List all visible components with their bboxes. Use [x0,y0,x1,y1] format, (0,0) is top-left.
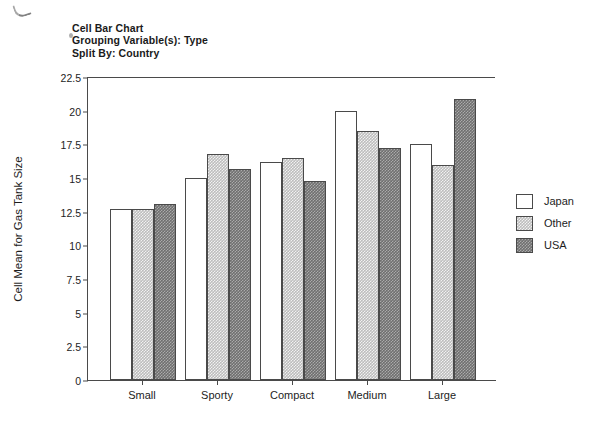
bar-sporty-japan[interactable] [185,178,207,380]
chart-title-block: Cell Bar Chart Grouping Variable(s): Typ… [72,22,208,59]
legend-item-japan[interactable]: Japan [516,190,574,212]
bar-compact-japan[interactable] [260,162,282,380]
scan-artifact-mark [12,1,32,19]
y-axis-tick-mark [83,246,88,247]
bar-large-other[interactable] [432,165,454,380]
bar-small-japan[interactable] [110,209,132,380]
bar-small-usa[interactable] [154,204,176,380]
bar-medium-other[interactable] [357,131,379,380]
chart-subtitle-grouping: Grouping Variable(s): Type [72,34,208,46]
legend-swatch-other [516,216,533,231]
y-axis-title-text: Cell Mean for Gas Tank Size [12,156,24,302]
x-axis-tick-mark [292,380,293,385]
bar-group-sporty [185,78,251,380]
bar-group-medium [335,78,401,380]
x-axis-tick-label-small: Small [128,389,156,401]
bar-group-small [110,78,176,380]
bar-large-usa[interactable] [454,99,476,380]
bar-compact-usa[interactable] [304,181,326,380]
bar-group-compact [260,78,326,380]
legend-item-usa[interactable]: USA [516,234,574,256]
legend-item-other[interactable]: Other [516,212,574,234]
legend: JapanOtherUSA [516,190,574,256]
y-axis-tick-mark [83,179,88,180]
bar-medium-usa[interactable] [379,148,401,380]
plot-area: 22.52017.51512.5107.552.50 [87,77,495,380]
bar-medium-japan[interactable] [335,111,357,380]
x-axis-tick-label-compact: Compact [270,389,314,401]
x-axis-tick-label-sporty: Sporty [201,389,233,401]
y-axis-tick-mark [83,78,88,79]
legend-label-other: Other [544,217,572,229]
x-axis-tick-label-large: Large [428,389,456,401]
bar-large-japan[interactable] [410,144,432,380]
x-axis-tick-label-medium: Medium [347,389,386,401]
y-axis-tick-mark [83,145,88,146]
chart-title: Cell Bar Chart [72,22,208,34]
bar-small-other[interactable] [132,209,154,380]
legend-swatch-usa [516,238,533,253]
y-axis-title: Cell Mean for Gas Tank Size [10,77,26,380]
y-axis-tick-mark [83,313,88,314]
y-axis-tick-mark [83,212,88,213]
y-axis-tick-mark [83,280,88,281]
legend-swatch-japan [516,194,533,209]
bar-sporty-usa[interactable] [229,169,251,380]
y-axis-tick-mark [83,347,88,348]
x-axis-tick-mark [142,380,143,385]
y-axis-tick-mark [83,111,88,112]
bar-group-large [410,78,476,380]
legend-label-usa: USA [544,239,567,251]
x-axis-tick-mark [217,380,218,385]
x-axis-tick-mark [442,380,443,385]
x-axis-tick-mark [367,380,368,385]
chart-subtitle-split: Split By: Country [72,47,208,59]
bar-sporty-other[interactable] [207,154,229,380]
legend-label-japan: Japan [544,195,574,207]
bar-compact-other[interactable] [282,158,304,380]
